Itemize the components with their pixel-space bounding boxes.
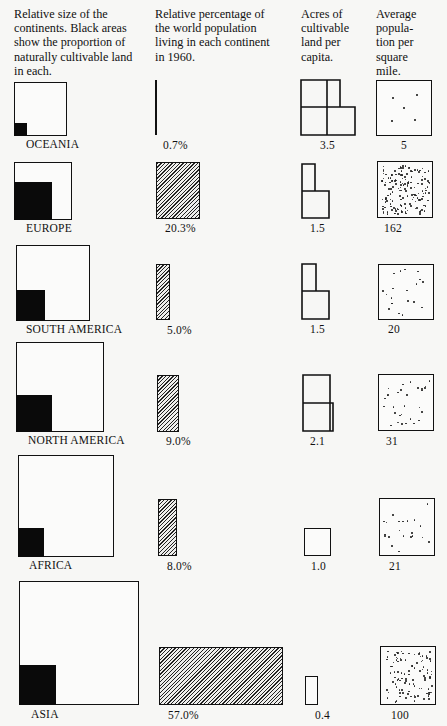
population-dot	[410, 187, 412, 189]
population-dot	[413, 683, 415, 685]
population-dot	[392, 200, 394, 202]
density-square	[377, 161, 433, 218]
continent-label: AFRICA	[29, 559, 72, 572]
population-dot	[402, 314, 404, 316]
population-dot	[385, 174, 387, 176]
population-dot	[397, 679, 399, 681]
population-dot	[390, 188, 392, 190]
population-dot	[404, 176, 406, 178]
population-dot	[402, 521, 404, 523]
population-dot	[428, 541, 430, 543]
population-dot	[428, 688, 430, 690]
population-dot	[427, 186, 429, 188]
cultivable-land-square	[18, 528, 44, 557]
population-dot	[392, 186, 394, 188]
population-dot	[383, 213, 385, 215]
acres-value: 1.5	[310, 222, 325, 235]
population-dot	[387, 697, 389, 699]
population-dot	[429, 380, 431, 382]
population-dot	[398, 313, 400, 315]
population-dot	[409, 203, 411, 205]
continent-label: ASIA	[31, 708, 59, 721]
population-dot	[431, 671, 433, 673]
acres-value: 1.5	[310, 323, 325, 336]
population-pct: 20.3%	[165, 222, 196, 235]
population-bar	[158, 499, 177, 556]
acres-glyph	[305, 676, 318, 705]
population-dot	[426, 657, 428, 659]
population-dot	[401, 170, 403, 172]
population-dot	[385, 182, 387, 184]
population-dot	[387, 213, 389, 215]
population-dot	[429, 658, 431, 660]
population-dot	[402, 692, 404, 694]
population-dot	[408, 691, 410, 693]
population-pct: 5.0%	[167, 324, 192, 337]
population-dot	[383, 521, 385, 523]
population-dot	[400, 389, 402, 391]
population-dot	[429, 676, 431, 678]
population-dot	[414, 685, 416, 687]
population-dot	[399, 195, 401, 197]
population-dot	[413, 423, 415, 425]
density-square	[378, 264, 434, 320]
header-continent-size: Relative size of the continents. Black a…	[14, 7, 132, 78]
population-dot	[420, 525, 422, 527]
population-dot	[410, 381, 412, 383]
population-dot	[402, 197, 404, 199]
population-dot	[425, 205, 427, 207]
population-dot	[386, 294, 388, 296]
cultivable-land-square	[14, 182, 52, 220]
population-dot	[421, 307, 423, 309]
population-dot	[417, 183, 419, 185]
population-dot	[408, 674, 410, 676]
population-dot	[422, 655, 424, 657]
acres-value: 1.0	[311, 560, 326, 573]
population-dot	[401, 423, 403, 425]
population-dot	[405, 213, 407, 215]
population-pct: 9.0%	[166, 435, 191, 448]
population-dot	[402, 175, 404, 177]
population-dot	[388, 692, 390, 694]
density-value: 5	[401, 139, 407, 152]
population-dot	[421, 179, 423, 181]
continent-label: OCEANIA	[26, 138, 79, 151]
population-dot	[410, 536, 412, 538]
population-pct: 57.0%	[168, 709, 199, 722]
acres-glyph	[304, 528, 331, 556]
population-dot	[422, 168, 424, 170]
population-bar	[159, 647, 283, 705]
population-dot	[405, 697, 407, 699]
population-dot	[405, 190, 407, 192]
population-dot	[383, 166, 385, 168]
population-pct: 0.7%	[163, 139, 188, 152]
population-dot	[383, 406, 385, 408]
population-dot	[400, 184, 402, 186]
population-dot	[391, 303, 393, 305]
population-dot	[420, 656, 422, 658]
population-dot	[395, 174, 397, 176]
population-dot	[427, 200, 429, 202]
population-dot	[401, 212, 403, 214]
population-dot	[388, 177, 390, 179]
population-dot	[392, 288, 394, 290]
population-dot	[423, 666, 425, 668]
population-dot	[418, 193, 420, 195]
population-dot	[427, 672, 429, 674]
acres-value: 3.5	[320, 139, 335, 152]
population-dot	[402, 167, 404, 169]
cultivable-land-square	[16, 395, 52, 432]
population-dot	[404, 673, 406, 675]
population-dot	[397, 671, 399, 673]
population-dot	[388, 308, 390, 310]
population-dot	[394, 170, 396, 172]
population-dot	[395, 183, 397, 185]
population-dot	[414, 667, 416, 669]
population-bar	[155, 80, 157, 135]
density-square	[376, 80, 432, 136]
population-dot	[400, 187, 402, 189]
population-dot	[388, 388, 390, 390]
density-square	[379, 498, 435, 556]
population-dot	[423, 698, 425, 700]
population-dot	[427, 503, 429, 505]
